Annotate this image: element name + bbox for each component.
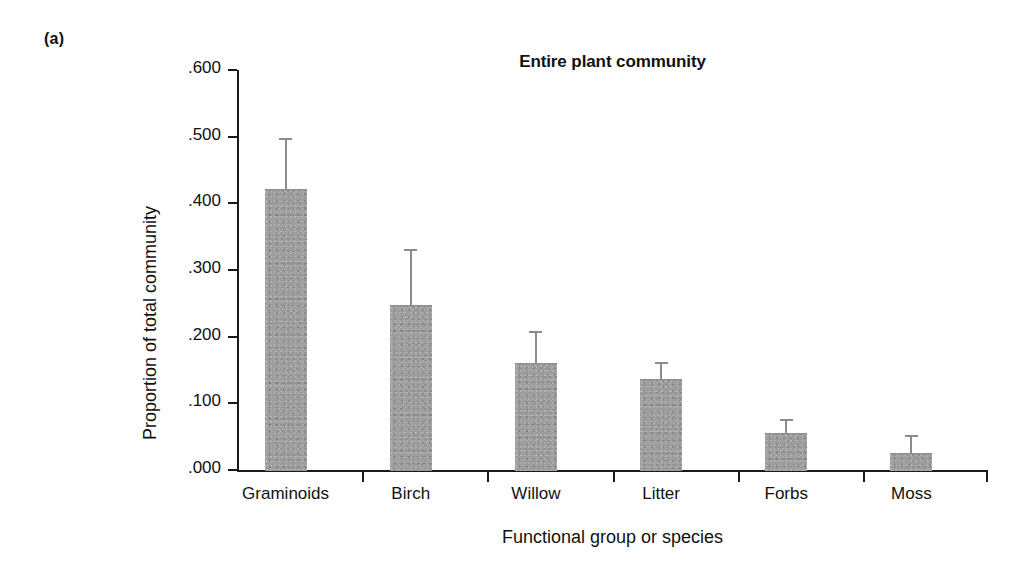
bar-graminoids xyxy=(265,189,307,471)
x-axis-tick-label-graminoids: Graminoids xyxy=(223,484,348,504)
x-axis-label: Functional group or species xyxy=(237,527,988,548)
y-axis-tick xyxy=(228,469,237,471)
error-bar-cap-moss xyxy=(905,435,918,437)
bar-birch xyxy=(390,305,432,471)
x-axis-tick xyxy=(613,472,615,482)
panel-label: (a) xyxy=(44,30,64,48)
error-bar-cap-graminoids xyxy=(279,138,292,140)
error-bar-cap-birch xyxy=(404,249,417,251)
plot-area: .600.500.400.300.200.100.000GraminoidsBi… xyxy=(237,70,988,470)
x-axis-tick-label-willow: Willow xyxy=(473,484,598,504)
y-axis-tick xyxy=(228,336,237,338)
error-bar-moss xyxy=(910,435,912,452)
error-bar-cap-litter xyxy=(655,362,668,364)
x-axis-tick xyxy=(362,472,364,482)
y-axis-tick xyxy=(228,402,237,404)
error-bar-cap-willow xyxy=(529,331,542,333)
error-bar-birch xyxy=(410,249,412,305)
chart-title: Entire plant community xyxy=(237,52,988,72)
bar-moss xyxy=(890,453,932,471)
y-axis-tick xyxy=(228,69,237,71)
x-axis-tick xyxy=(487,472,489,482)
y-axis-tick-label: .400 xyxy=(165,191,221,211)
bar-litter xyxy=(640,379,682,471)
bar-willow xyxy=(515,363,557,471)
bar-forbs xyxy=(765,433,807,471)
x-axis-tick-label-birch: Birch xyxy=(348,484,473,504)
y-axis-tick-label: .100 xyxy=(165,391,221,411)
y-axis-tick xyxy=(228,269,237,271)
y-axis-tick-label: .200 xyxy=(165,325,221,345)
figure-panel-a: (a) Entire plant community .600.500.400.… xyxy=(0,0,1023,570)
y-axis-tick xyxy=(228,136,237,138)
y-axis-tick xyxy=(228,202,237,204)
error-bar-litter xyxy=(660,362,662,379)
error-bar-cap-forbs xyxy=(780,419,793,421)
x-axis-tick-label-forbs: Forbs xyxy=(724,484,849,504)
y-axis-line xyxy=(237,70,239,470)
x-axis-tick xyxy=(738,472,740,482)
x-axis-tick-label-moss: Moss xyxy=(849,484,974,504)
y-axis-tick-label: .500 xyxy=(165,125,221,145)
error-bar-willow xyxy=(535,331,537,363)
y-axis-label: Proportion of total community xyxy=(140,206,161,440)
error-bar-graminoids xyxy=(285,138,287,189)
x-axis-tick xyxy=(863,472,865,482)
y-axis-tick-label: .600 xyxy=(165,58,221,78)
y-axis-tick-label: .000 xyxy=(165,458,221,478)
y-axis-tick-label: .300 xyxy=(165,258,221,278)
x-axis-tick-label-litter: Litter xyxy=(599,484,724,504)
x-axis-end-tick xyxy=(986,472,988,482)
